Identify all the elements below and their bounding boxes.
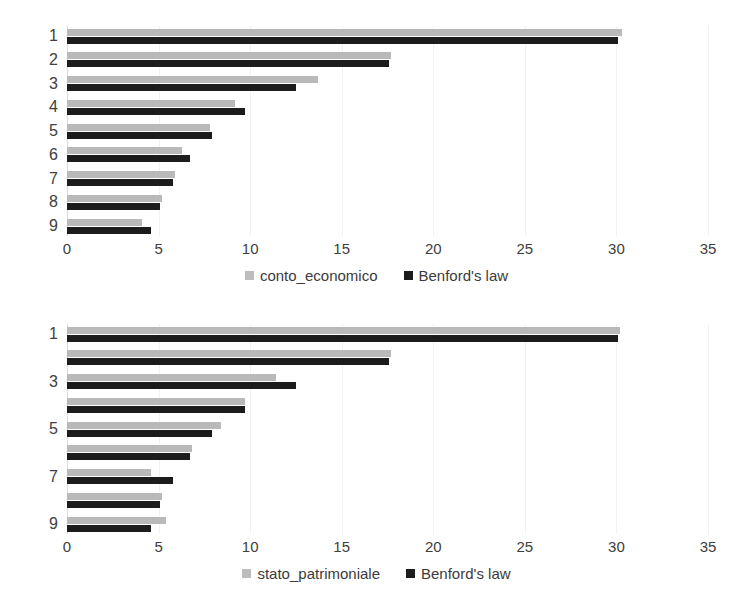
legend-swatch-icon	[406, 569, 415, 578]
bar	[67, 501, 160, 508]
legend-swatch-icon	[404, 271, 413, 280]
y-tick-label: 2	[24, 50, 58, 70]
chart-conto-economico: 1 2 3 4 5 6 7 8 9 05101520253035 conto_e…	[0, 0, 753, 298]
bar	[67, 227, 151, 234]
y-tick-label: 5	[24, 419, 58, 439]
chart-stato-patrimoniale: 1 3 5 7 9 05101520253035 stato_patrimoni…	[0, 298, 753, 596]
y-tick-label: 9	[24, 216, 58, 236]
bar-group	[67, 97, 708, 117]
bar	[67, 350, 391, 357]
bar-rows-bottom	[67, 324, 708, 534]
bar-group	[67, 50, 708, 70]
bar	[67, 335, 618, 342]
bar	[67, 219, 142, 226]
x-tick-label: 5	[154, 240, 162, 257]
y-tick-label	[24, 443, 58, 463]
bar	[67, 132, 212, 139]
bar-group	[67, 169, 708, 189]
bar-group	[67, 395, 708, 415]
bar-rows-top	[67, 26, 708, 236]
bar	[67, 37, 618, 44]
bar	[67, 469, 151, 476]
plot-area-top	[67, 26, 708, 236]
bar-group	[67, 419, 708, 439]
legend-entry: Benford's law	[406, 566, 511, 581]
bar-group	[67, 145, 708, 165]
bar	[67, 453, 190, 460]
y-tick-label: 5	[24, 121, 58, 141]
x-axis-labels-bottom: 05101520253035	[0, 538, 753, 562]
bar	[67, 108, 245, 115]
x-tick-label: 30	[608, 538, 625, 555]
y-tick-label: 4	[24, 97, 58, 117]
bar-group	[67, 348, 708, 368]
y-tick-label: 8	[24, 192, 58, 212]
y-tick-label: 3	[24, 372, 58, 392]
bar-group	[67, 192, 708, 212]
bar	[67, 477, 173, 484]
bar	[67, 203, 160, 210]
x-tick-label: 10	[242, 538, 259, 555]
bar	[67, 517, 166, 524]
y-tick-label: 9	[24, 514, 58, 534]
bar-group	[67, 324, 708, 344]
bar	[67, 493, 162, 500]
y-tick-label	[24, 348, 58, 368]
bar-group	[67, 490, 708, 510]
y-tick-label: 3	[24, 74, 58, 94]
y-axis-labels-top: 1 2 3 4 5 6 7 8 9	[24, 26, 58, 236]
legend-swatch-icon	[242, 569, 251, 578]
bar	[67, 382, 296, 389]
x-tick-label: 20	[425, 538, 442, 555]
bar	[67, 406, 245, 413]
bar	[67, 195, 162, 202]
bar-group	[67, 443, 708, 463]
bar	[67, 147, 182, 154]
legend-label: Benford's law	[419, 268, 509, 283]
y-tick-label: 7	[24, 467, 58, 487]
bar-group	[67, 467, 708, 487]
bar	[67, 60, 389, 67]
bar-group	[67, 26, 708, 46]
bar	[67, 327, 620, 334]
y-tick-label: 1	[24, 324, 58, 344]
x-tick-label: 25	[517, 240, 534, 257]
y-tick-label: 6	[24, 145, 58, 165]
bar	[67, 525, 151, 532]
x-tick-label: 0	[63, 240, 71, 257]
bar-group	[67, 372, 708, 392]
bar-group	[67, 216, 708, 236]
y-axis-labels-bottom: 1 3 5 7 9	[24, 324, 58, 534]
y-tick-label: 1	[24, 26, 58, 46]
bar	[67, 76, 318, 83]
x-tick-label: 30	[608, 240, 625, 257]
legend-label: stato_patrimoniale	[257, 566, 380, 581]
x-tick-label: 0	[63, 538, 71, 555]
bar	[67, 398, 245, 405]
x-tick-label: 15	[333, 538, 350, 555]
bar	[67, 52, 391, 59]
y-tick-label	[24, 490, 58, 510]
x-tick-label: 10	[242, 240, 259, 257]
x-tick-label: 15	[333, 240, 350, 257]
gridline	[708, 26, 709, 236]
bar	[67, 171, 175, 178]
bar	[67, 179, 173, 186]
legend-entry: conto_economico	[245, 268, 378, 283]
gridline	[708, 324, 709, 534]
y-tick-label: 7	[24, 169, 58, 189]
legend-swatch-icon	[245, 271, 254, 280]
y-tick-label	[24, 395, 58, 415]
x-axis-labels-top: 05101520253035	[0, 240, 753, 264]
bar	[67, 374, 276, 381]
bar	[67, 84, 296, 91]
legend-entry: stato_patrimoniale	[242, 566, 380, 581]
bar	[67, 124, 210, 131]
bar	[67, 445, 192, 452]
x-tick-label: 35	[700, 538, 717, 555]
legend-label: conto_economico	[260, 268, 378, 283]
legend-top: conto_economicoBenford's law	[0, 268, 753, 283]
plot-area-bottom	[67, 324, 708, 534]
x-tick-label: 35	[700, 240, 717, 257]
bar	[67, 430, 212, 437]
